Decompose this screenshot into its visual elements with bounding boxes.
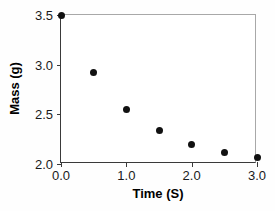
- x-axis-tick-label: 0.0: [52, 168, 70, 183]
- data-point: [90, 69, 97, 76]
- data-point: [58, 12, 65, 19]
- y-axis-title: Mass (g): [6, 14, 22, 163]
- plot-area: 2.02.53.03.5 0.01.02.03.0: [60, 14, 256, 163]
- data-point: [254, 154, 261, 161]
- y-axis-tick-label: 3.0: [35, 57, 53, 72]
- x-axis-tick: [257, 162, 258, 167]
- x-axis-tick: [192, 162, 193, 167]
- data-point: [156, 127, 163, 134]
- data-point: [188, 141, 195, 148]
- x-axis-tick: [126, 162, 127, 167]
- y-axis-tick: [57, 114, 61, 115]
- data-point: [123, 106, 130, 113]
- chart-figure: Mass (g) 2.02.53.03.5 0.01.02.03.0 Time …: [0, 0, 275, 211]
- x-axis-tick: [61, 162, 62, 167]
- data-point: [221, 149, 228, 156]
- y-axis-tick: [57, 65, 61, 66]
- y-axis-tick-label: 2.5: [35, 107, 53, 122]
- x-axis-tick-label: 2.0: [183, 168, 201, 183]
- y-axis-title-text: Mass (g): [7, 62, 22, 115]
- y-axis-tick-label: 2.0: [35, 157, 53, 172]
- y-axis-tick-label: 3.5: [35, 8, 53, 23]
- x-axis-tick-label: 1.0: [117, 168, 135, 183]
- x-axis-tick-label: 3.0: [248, 168, 266, 183]
- x-axis-title: Time (S): [60, 186, 256, 201]
